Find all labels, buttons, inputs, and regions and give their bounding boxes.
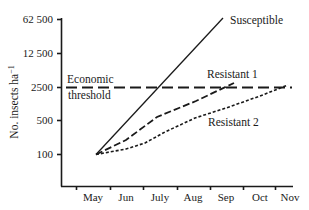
x-tick-label: July <box>151 191 170 203</box>
x-tick-label: Aug <box>184 191 203 203</box>
series-resistant-2 <box>96 85 288 155</box>
threshold-label: threshold <box>68 89 111 101</box>
y-tick-label: 12 500 <box>23 47 54 59</box>
y-axis-title: No. insects ha−1 <box>7 65 20 138</box>
chart: 62 500 12 500 2500 500 100 May Jun July … <box>0 0 309 210</box>
y-tick-label: 62 500 <box>23 13 54 25</box>
y-tick-labels: 62 500 12 500 2500 500 100 <box>23 13 54 160</box>
y-tick-label: 500 <box>37 114 54 126</box>
x-tick-labels: May Jun July Aug Sep Oct Nov <box>83 191 300 203</box>
y-tick-label: 100 <box>37 148 54 160</box>
y-tick-label: 2500 <box>31 81 54 93</box>
x-tick-label: Jun <box>118 191 134 203</box>
x-tick-label: Oct <box>252 191 268 203</box>
x-tick-label: Sep <box>218 191 235 203</box>
series-label-resistant-2: Resistant 2 <box>208 116 259 128</box>
x-tick-label: May <box>83 191 104 203</box>
series-label-susceptible: Susceptible <box>230 14 283 27</box>
axes <box>57 18 293 190</box>
threshold-label: Economic <box>67 73 114 85</box>
series-label-resistant-1: Resistant 1 <box>207 68 258 80</box>
series-susceptible <box>96 18 223 155</box>
x-tick-label: Nov <box>281 191 300 203</box>
